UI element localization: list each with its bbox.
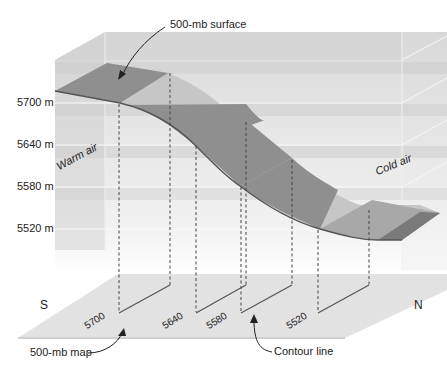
altitude-label-5700: 5700 m — [17, 96, 54, 108]
altitude-label-5640: 5640 m — [17, 138, 54, 150]
surface-callout-label: 500-mb surface — [170, 18, 246, 30]
box-top-face — [55, 32, 402, 60]
north-label: N — [414, 298, 423, 312]
south-label: S — [40, 298, 48, 312]
map-callout-label: 500-mb map — [30, 346, 92, 358]
altitude-label-5580: 5580 m — [17, 180, 54, 192]
altitude-label-5520: 5520 m — [17, 222, 54, 234]
map-plane — [18, 274, 447, 338]
contour-callout-label: Contour line — [274, 345, 333, 357]
